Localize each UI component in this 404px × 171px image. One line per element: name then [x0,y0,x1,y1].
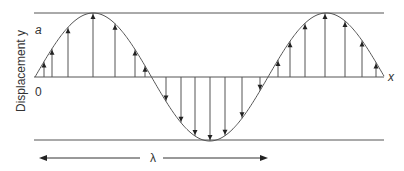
wavelength-label: λ [150,151,156,165]
y-axis-label: Displacement y [14,30,28,112]
x-axis-label: x [387,70,395,84]
arrow-right-icon [260,155,268,161]
arrow-left-icon [39,155,47,161]
amplitude-label: a [35,23,42,37]
origin-label: 0 [35,85,42,99]
wave-diagram: λ a 0 x Displacement y [0,0,404,171]
wave-svg: λ a 0 x Displacement y [0,0,404,171]
